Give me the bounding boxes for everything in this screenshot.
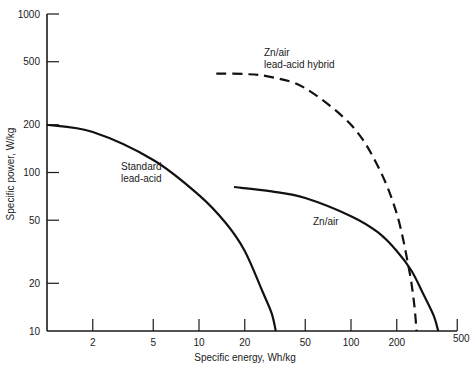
y-tick-label: 1000 <box>18 9 41 20</box>
y-tick-label: 20 <box>29 278 41 289</box>
x-tick-label: 500 <box>453 333 470 344</box>
chart: 251020501002005001020501002005001000 Sta… <box>0 0 471 369</box>
y-tick-label: 100 <box>23 167 40 178</box>
series-labels: Standardlead-acidZn/airZn/airlead-acid h… <box>121 47 339 227</box>
x-tick-label: 20 <box>239 337 251 348</box>
y-tick-label: 50 <box>29 215 41 226</box>
x-tick-label: 5 <box>150 337 156 348</box>
x-axis-title: Specific energy, Wh/kg <box>194 352 296 363</box>
series-label-standard-lead-acid: Standardlead-acid <box>121 161 162 184</box>
x-tick-label: 200 <box>388 337 405 348</box>
series-label-zn-air-lead-acid-hybrid: Zn/airlead-acid hybrid <box>264 47 335 70</box>
series-line-standard-lead-acid <box>47 125 276 331</box>
series-label-zn-air: Zn/air <box>313 216 339 227</box>
y-axis-title: Specific power, W/kg <box>5 128 16 221</box>
y-tick-label: 10 <box>29 326 41 337</box>
x-tick-label: 100 <box>343 337 360 348</box>
series-lines <box>47 74 438 331</box>
x-tick-label: 50 <box>300 337 312 348</box>
y-tick-label: 200 <box>23 119 40 130</box>
axes: 251020501002005001020501002005001000 <box>18 9 470 349</box>
x-tick-label: 2 <box>90 337 96 348</box>
x-tick-label: 10 <box>193 337 205 348</box>
y-tick-label: 500 <box>23 56 40 67</box>
